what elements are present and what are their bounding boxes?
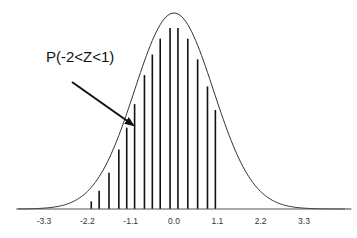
x-tick-label: -2.2 (80, 216, 95, 226)
annotation-arrow (72, 82, 133, 125)
normal-curve (16, 13, 351, 209)
x-tick-label: 2.2 (255, 216, 267, 226)
x-axis-tick-labels: -3.3-2.2-1.10.01.12.23.3 (37, 216, 311, 226)
x-tick-label: -3.3 (37, 216, 52, 226)
x-tick-label: -1.1 (123, 216, 138, 226)
x-tick-label: 0.0 (168, 216, 180, 226)
normal-distribution-chart: -3.3-2.2-1.10.01.12.23.3 P(-2<Z<1) (0, 0, 357, 238)
probability-annotation: P(-2<Z<1) (46, 48, 114, 65)
x-tick-label: 1.1 (211, 216, 223, 226)
x-tick-label: 3.3 (298, 216, 310, 226)
